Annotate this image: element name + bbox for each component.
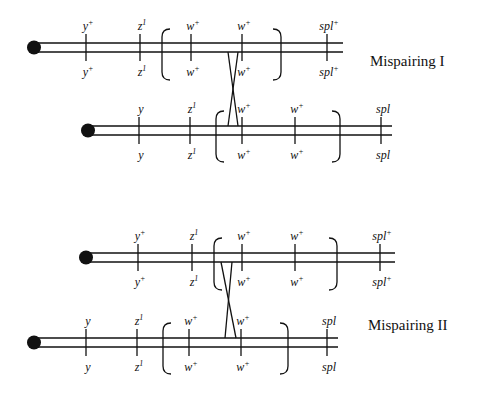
locus-label-top: spl+: [372, 228, 391, 243]
locus-label-top: spl: [322, 314, 337, 328]
centromere-dot: [27, 336, 41, 350]
duplication-bracket-left: [216, 111, 224, 162]
locus-label-bottom: w+: [290, 147, 303, 162]
centromere-dot: [81, 124, 95, 138]
locus-label-bottom: y: [137, 148, 144, 162]
locus-label-bottom: spl+: [372, 274, 391, 289]
mispairing-title: Mispairing II: [368, 317, 448, 333]
locus-label-bottom: z1: [187, 147, 197, 162]
locus-label-bottom: spl: [376, 148, 391, 162]
chromosome-pair: y+y+z1z1w+w+w+w+spl+spl+: [27, 18, 343, 80]
locus-label-top: w+: [237, 101, 250, 116]
crossover-line: [225, 262, 232, 338]
locus-label-bottom: w+: [290, 274, 303, 289]
locus-label-top: w+: [290, 101, 303, 116]
duplication-bracket-right: [332, 111, 340, 162]
locus-label-top: w+: [186, 18, 199, 33]
mispairing-title: Mispairing I: [370, 53, 445, 69]
locus-label-bottom: z1: [134, 359, 144, 374]
panel-2: y+y+z1z1w+w+w+w+spl+spl+yyz1z1w+w+w+w+sp…: [27, 228, 448, 374]
locus-label-top: z1: [134, 313, 144, 328]
locus-label-bottom: y: [84, 360, 91, 374]
centromere-dot: [79, 251, 93, 265]
mispairing-diagram: y+y+z1z1w+w+w+w+spl+spl+yyz1z1w+w+w+w+sp…: [0, 0, 477, 393]
locus-label-bottom: w+: [237, 64, 250, 79]
locus-label-bottom: w+: [237, 274, 250, 289]
locus-label-bottom: y+: [82, 64, 94, 79]
centromere-dot: [27, 41, 41, 55]
locus-label-top: y: [84, 314, 91, 328]
locus-label-bottom: w+: [184, 359, 197, 374]
locus-label-bottom: y+: [134, 274, 146, 289]
locus-label-top: w+: [236, 313, 249, 328]
locus-label-top: w+: [237, 18, 250, 33]
locus-label-bottom: z1: [189, 274, 199, 289]
locus-label-top: z1: [187, 101, 197, 116]
locus-label-bottom: spl+: [319, 64, 338, 79]
locus-label-top: y+: [134, 228, 146, 243]
duplication-bracket-left: [163, 323, 171, 374]
duplication-bracket-right: [273, 29, 281, 80]
chromosome-pair: y+y+z1z1w+w+w+w+spl+spl+: [79, 228, 395, 290]
locus-label-bottom: spl: [322, 360, 337, 374]
locus-label-top: y: [137, 102, 144, 116]
locus-label-bottom: w+: [236, 359, 249, 374]
locus-label-bottom: w+: [237, 147, 250, 162]
duplication-bracket-right: [329, 238, 337, 290]
chromosome-mispairing-figure: y+y+z1z1w+w+w+w+spl+spl+yyz1z1w+w+w+w+sp…: [0, 0, 477, 393]
locus-label-top: y+: [82, 18, 94, 33]
locus-label-top: spl+: [319, 18, 338, 33]
duplication-bracket-right: [280, 323, 288, 374]
locus-label-top: w+: [290, 228, 303, 243]
locus-label-top: z1: [137, 18, 147, 33]
locus-label-top: z1: [189, 228, 199, 243]
chromosome-pair: yyz1z1w+w+w+w+splspl: [27, 313, 338, 374]
locus-label-top: w+: [237, 228, 250, 243]
panel-1: y+y+z1z1w+w+w+w+spl+spl+yyz1z1w+w+w+w+sp…: [27, 18, 445, 162]
locus-label-top: spl: [376, 102, 391, 116]
locus-label-top: w+: [184, 313, 197, 328]
locus-label-bottom: w+: [186, 64, 199, 79]
duplication-bracket-left: [162, 29, 170, 80]
locus-label-bottom: z1: [137, 64, 147, 79]
